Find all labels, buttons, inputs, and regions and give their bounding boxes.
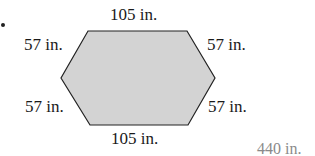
label-top: 105 in. bbox=[110, 6, 157, 23]
label-bottom: 105 in. bbox=[111, 130, 158, 147]
label-lower-right: 57 in. bbox=[208, 98, 247, 115]
label-lower-left: 57 in. bbox=[25, 98, 64, 115]
answer-text: 440 in. bbox=[257, 141, 301, 156]
label-upper-left: 57 in. bbox=[24, 36, 63, 53]
hexagon-shape bbox=[61, 31, 215, 125]
label-upper-right: 57 in. bbox=[207, 36, 246, 53]
